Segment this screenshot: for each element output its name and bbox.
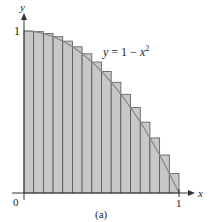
rectangle [24,31,34,193]
rectangle [102,72,112,194]
curve-label: y = 1 − x2 [102,44,149,59]
x-axis-label: x [197,187,203,199]
rectangle [72,47,82,193]
rectangle [43,34,53,193]
rectangle [160,155,170,193]
rectangle [34,32,44,193]
y-axis-arrow-icon [21,13,27,20]
x-tick-label-1: 1 [176,197,182,209]
rectangle [111,82,121,193]
x-tick-label-0: 0 [13,196,19,208]
rectangle [92,62,102,193]
figure-caption: (a) [95,208,108,221]
rectangle [140,122,150,193]
rectangle [121,94,131,193]
y-tick-label-1: 1 [14,24,20,38]
riemann-sum-figure: y x 1 0 1 y = 1 − x2 (a) [0,0,214,222]
rectangle [53,37,63,193]
y-axis-label: y [19,1,25,13]
rectangle [82,54,92,193]
x-axis-arrow-icon [188,190,195,196]
rectangle [63,41,73,193]
rectangles [24,31,179,193]
